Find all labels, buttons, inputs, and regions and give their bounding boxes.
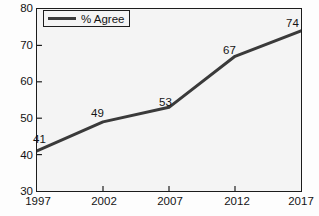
y-tick-80: 80 bbox=[3, 2, 33, 14]
y-tick-50: 50 bbox=[3, 112, 33, 124]
point-label-2002: 49 bbox=[91, 107, 104, 119]
x-tick-2012: 2012 bbox=[212, 195, 262, 208]
line-chart: 80 70 60 50 40 30 bbox=[0, 0, 319, 216]
point-label-2012: 67 bbox=[223, 44, 236, 56]
legend-label: % Agree bbox=[81, 13, 124, 25]
x-tick-1997: 1997 bbox=[13, 195, 63, 208]
y-tick-70: 70 bbox=[3, 39, 33, 51]
y-tick-40: 40 bbox=[3, 149, 33, 161]
legend: % Agree bbox=[43, 10, 130, 27]
x-tick-2007: 2007 bbox=[145, 195, 195, 208]
y-axis-tick-labels: 80 70 60 50 40 30 bbox=[0, 0, 33, 216]
point-label-1997: 41 bbox=[33, 133, 46, 145]
y-tick-60: 60 bbox=[3, 75, 33, 87]
point-label-2007: 53 bbox=[159, 96, 172, 108]
point-label-2017: 74 bbox=[286, 17, 299, 29]
legend-line-swatch bbox=[48, 17, 76, 20]
x-tick-2017: 2017 bbox=[276, 195, 319, 208]
x-tick-2002: 2002 bbox=[79, 195, 129, 208]
x-axis-ticks bbox=[103, 186, 235, 191]
